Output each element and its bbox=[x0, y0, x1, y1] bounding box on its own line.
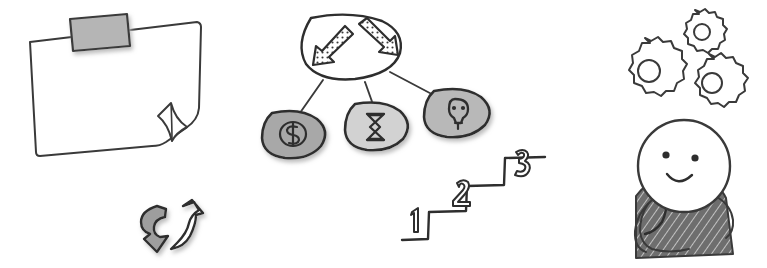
tree-node-cost bbox=[262, 111, 325, 158]
tape-strip bbox=[70, 14, 130, 51]
staircase bbox=[402, 150, 545, 240]
gear-cluster bbox=[629, 9, 748, 107]
sketch-canvas: Blank taped paper with curled corner Tap… bbox=[0, 0, 767, 268]
gear-top-teeth bbox=[684, 9, 727, 53]
gear-top-hub bbox=[694, 24, 710, 40]
node-ellipse-time bbox=[345, 103, 408, 151]
person-head bbox=[638, 120, 730, 212]
person-eye-right bbox=[691, 154, 698, 161]
person-eye-left bbox=[662, 151, 669, 158]
scene-illustration bbox=[0, 0, 767, 268]
tree-root-node bbox=[302, 15, 401, 80]
tree-node-idea bbox=[424, 89, 490, 137]
arrow-down-cycle-icon bbox=[141, 206, 168, 252]
down-arrow-body bbox=[141, 206, 168, 252]
gear-icon-top bbox=[684, 9, 727, 53]
tree-node-time bbox=[345, 103, 408, 151]
gear-icon-left bbox=[629, 37, 687, 96]
arrow-up-cycle-icon bbox=[171, 200, 203, 249]
numeral-3 bbox=[515, 150, 530, 176]
tape-rect bbox=[70, 14, 130, 51]
up-arrow-body bbox=[171, 200, 203, 249]
step-number-1 bbox=[411, 208, 418, 232]
step-number-3 bbox=[515, 150, 530, 176]
gear-right-hub bbox=[702, 73, 722, 93]
gear-icon-right bbox=[695, 53, 748, 107]
numeral-1 bbox=[411, 208, 418, 232]
node-ellipse-idea bbox=[424, 89, 490, 137]
thinking-person bbox=[635, 120, 733, 258]
cycle-arrows bbox=[141, 200, 203, 252]
gear-left-hub bbox=[638, 60, 660, 82]
decision-tree-diagram bbox=[262, 15, 490, 159]
paper-note bbox=[30, 14, 201, 156]
